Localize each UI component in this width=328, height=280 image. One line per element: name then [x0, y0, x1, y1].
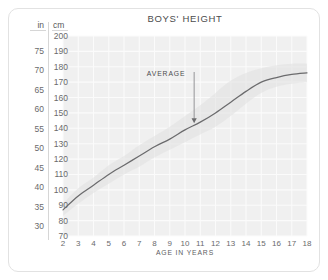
- cm-tick-80: 80: [59, 216, 69, 226]
- cm-tick-90: 90: [59, 200, 69, 210]
- in-tick-60: 60: [35, 104, 45, 114]
- in-tick-30: 30: [35, 221, 45, 231]
- x-tick-4: 4: [91, 239, 96, 248]
- cm-tick-200: 200: [54, 31, 68, 41]
- cm-tick-140: 140: [54, 123, 68, 133]
- average-annotation-label: AVERAGE: [147, 70, 186, 77]
- x-tick-16: 16: [272, 239, 281, 248]
- chart-title: BOYS' HEIGHT: [147, 13, 222, 24]
- cm-tick-160: 160: [54, 93, 68, 103]
- x-tick-8: 8: [152, 239, 157, 248]
- x-tick-6: 6: [122, 239, 127, 248]
- in-tick-75: 75: [35, 46, 45, 56]
- cm-tick-180: 180: [54, 62, 68, 72]
- x-tick-13: 13: [226, 239, 235, 248]
- x-tick-10: 10: [181, 239, 190, 248]
- x-tick-9: 9: [168, 239, 173, 248]
- boys-height-growth-chart: in cm 7080901001101201301401501601701801…: [0, 0, 328, 280]
- cm-tick-190: 190: [54, 46, 68, 56]
- x-tick-2: 2: [61, 239, 66, 248]
- x-tick-15: 15: [257, 239, 266, 248]
- cm-tick-100: 100: [54, 185, 68, 195]
- x-tick-7: 7: [137, 239, 142, 248]
- in-tick-35: 35: [35, 202, 45, 212]
- cm-tick-170: 170: [54, 77, 68, 87]
- x-tick-5: 5: [107, 239, 112, 248]
- in-tick-65: 65: [35, 85, 45, 95]
- in-tick-45: 45: [35, 163, 45, 173]
- x-tick-11: 11: [196, 239, 205, 248]
- in-axis-header: in: [37, 20, 44, 30]
- x-tick-14: 14: [242, 239, 251, 248]
- x-tick-3: 3: [76, 239, 81, 248]
- cm-tick-120: 120: [54, 154, 68, 164]
- x-tick-18: 18: [303, 239, 312, 248]
- x-axis-tick-labels: 23456789101112131415161718: [61, 239, 312, 248]
- x-tick-12: 12: [211, 239, 220, 248]
- in-tick-50: 50: [35, 143, 45, 153]
- in-tick-40: 40: [35, 182, 45, 192]
- cm-tick-130: 130: [54, 139, 68, 149]
- cm-axis-header: cm: [53, 20, 64, 30]
- cm-tick-110: 110: [54, 169, 68, 179]
- in-axis-tick-labels: 30354045505560657075: [35, 46, 45, 232]
- in-tick-55: 55: [35, 124, 45, 134]
- cm-tick-150: 150: [54, 108, 68, 118]
- in-tick-70: 70: [35, 65, 45, 75]
- chart-screenshot: in cm 7080901001101201301401501601701801…: [0, 0, 328, 280]
- x-axis-title: AGE IN YEARS: [156, 249, 214, 256]
- x-tick-17: 17: [287, 239, 296, 248]
